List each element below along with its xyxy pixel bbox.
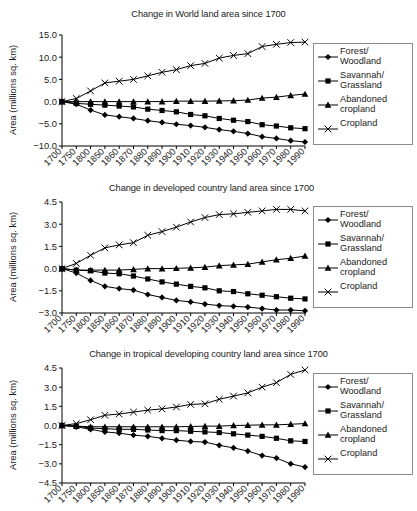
data-point <box>131 273 136 278</box>
y-axis-tick-label: 1.5 <box>44 401 57 412</box>
legend-item: Forest/ Woodland <box>314 376 412 400</box>
data-point <box>173 297 179 303</box>
y-axis-tick-label: 15.0 <box>39 29 57 40</box>
legend-item-label: Abandoned cropland <box>339 257 387 278</box>
data-point <box>159 228 166 235</box>
legend-marker <box>325 384 331 390</box>
data-point <box>230 128 236 134</box>
data-point <box>202 429 207 434</box>
data-point <box>174 109 179 114</box>
legend-item-label: Forest/ Woodland <box>339 376 381 397</box>
data-point <box>216 303 222 309</box>
data-point <box>302 139 308 145</box>
data-point <box>259 134 265 140</box>
y-axis-tick-label: 4.5 <box>44 362 57 373</box>
data-point <box>259 452 265 458</box>
y-axis-tick-label: 10.0 <box>39 52 57 63</box>
y-axis-tick-label: 4.5 <box>44 196 57 207</box>
legend-marker-square-icon <box>317 403 339 415</box>
series-line <box>62 42 305 102</box>
legend-item-label: Abandoned cropland <box>339 94 387 115</box>
data-point <box>274 294 279 299</box>
data-point <box>260 122 265 127</box>
series-markers <box>59 367 309 429</box>
data-point <box>202 301 208 307</box>
data-point <box>245 304 251 310</box>
y-axis-tick-label: 3.0 <box>44 219 57 230</box>
data-point <box>245 291 250 296</box>
data-point <box>216 442 222 448</box>
legend-marker-diamond-icon <box>317 49 339 61</box>
data-point <box>259 384 266 391</box>
figure-panel-stack: Change in World land area since 1700 15.… <box>0 0 417 511</box>
data-point <box>217 430 222 435</box>
data-point <box>145 291 151 297</box>
data-point <box>245 432 250 437</box>
data-point <box>159 435 165 441</box>
data-point <box>159 279 164 284</box>
data-point <box>273 307 279 313</box>
data-point <box>188 438 194 444</box>
data-point <box>273 135 279 141</box>
data-point <box>102 112 108 118</box>
series-markers <box>59 266 308 314</box>
data-point <box>216 126 222 132</box>
legend-item: Forest/ Woodland <box>314 46 412 70</box>
data-point <box>230 445 236 451</box>
data-point <box>87 252 94 259</box>
data-point <box>302 296 307 301</box>
data-point <box>217 288 222 293</box>
legend-item-label: Savannah/ Grassland <box>339 233 384 254</box>
data-point <box>145 276 150 281</box>
series-line <box>62 269 305 311</box>
legend-item-label: Cropland <box>339 118 377 128</box>
data-point <box>302 91 309 97</box>
data-point <box>159 294 165 300</box>
data-point <box>174 282 179 287</box>
data-point <box>159 119 165 125</box>
legend-marker-diamond-icon <box>317 379 339 391</box>
data-point <box>231 289 236 294</box>
y-axis-tick-label: 0.0 <box>44 263 57 274</box>
legend-item-label: Savannah/ Grassland <box>339 70 384 91</box>
legend-marker-diamond-icon <box>317 212 339 224</box>
data-point <box>130 287 136 293</box>
series-line <box>62 94 305 102</box>
data-point <box>302 367 309 374</box>
chart-panel-tropical-developing: Change in tropical developing country la… <box>0 343 417 511</box>
series-line <box>62 102 305 142</box>
legend-marker-x-icon <box>317 451 339 463</box>
data-point <box>302 253 309 259</box>
legend-item: Savannah/ Grassland <box>314 70 412 94</box>
data-point <box>144 73 151 80</box>
y-axis-tick-label: −5.0 <box>38 118 57 129</box>
data-point <box>188 122 194 128</box>
data-point <box>202 124 208 130</box>
data-point <box>102 283 108 289</box>
data-point <box>245 390 252 397</box>
data-point <box>73 260 80 267</box>
data-point <box>260 293 265 298</box>
data-point <box>87 277 93 283</box>
data-point <box>288 138 294 144</box>
legend-marker <box>325 241 330 246</box>
legend-item-label: Cropland <box>339 281 377 291</box>
legend-item-label: Abandoned cropland <box>339 424 387 445</box>
legend-marker-square-icon <box>317 236 339 248</box>
chart-legend: Forest/ WoodlandSavannah/ GrasslandAband… <box>313 373 413 475</box>
series-line <box>62 256 305 270</box>
data-point <box>245 119 250 124</box>
data-point <box>231 118 236 123</box>
series-markers <box>59 422 308 470</box>
data-point <box>273 379 280 386</box>
data-point <box>287 371 294 378</box>
legend-item: Savannah/ Grassland <box>314 233 412 257</box>
data-point <box>87 107 93 113</box>
data-point <box>188 112 193 117</box>
series-markers <box>59 39 309 105</box>
data-point <box>87 416 94 423</box>
data-point <box>130 432 136 438</box>
data-point <box>202 439 208 445</box>
data-point <box>288 125 293 130</box>
y-axis-label: Area (millions sq. km) <box>7 380 18 470</box>
